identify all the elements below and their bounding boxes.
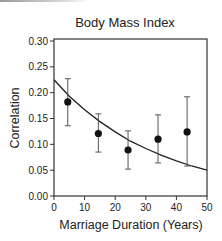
y-tick-label: 0.20 (29, 87, 49, 98)
y-tick-label: 0.05 (29, 165, 49, 176)
x-axis-label: Marriage Duration (Years) (59, 218, 202, 232)
x-tick-label: 10 (79, 202, 91, 213)
y-tick-label: 0.00 (29, 191, 49, 202)
x-tick-label: 50 (201, 202, 213, 213)
chart-canvas: Body Mass Index Marriage Duration (Years… (0, 0, 222, 241)
y-tick-label: 0.30 (29, 36, 49, 47)
fitted-curve (54, 80, 207, 170)
y-tick-label: 0.15 (29, 113, 49, 124)
y-tick-label: 0.25 (29, 61, 49, 72)
data-point (64, 98, 71, 105)
data-point (95, 130, 102, 137)
y-axis-label: Correlation (8, 87, 22, 148)
data-point (184, 128, 191, 135)
x-tick-label: 0 (51, 202, 57, 213)
x-tick-label: 30 (140, 202, 152, 213)
data-point (124, 146, 131, 153)
plot-area: 0.000.050.100.150.200.250.3001020304050 (29, 36, 213, 214)
x-tick-label: 40 (171, 202, 183, 213)
y-tick-label: 0.10 (29, 139, 49, 150)
data-point (154, 136, 161, 143)
chart-title: Body Mass Index (75, 15, 175, 30)
plot-frame (54, 39, 207, 196)
x-tick-label: 20 (110, 202, 122, 213)
